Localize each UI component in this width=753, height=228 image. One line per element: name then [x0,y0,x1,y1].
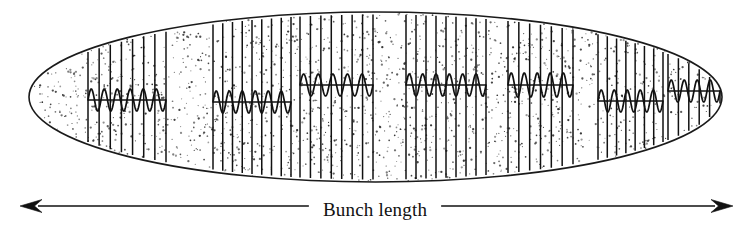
stipple-dot [336,47,337,48]
stipple-dot [386,113,387,114]
stipple-dot [640,147,642,149]
stipple-dot [322,118,323,119]
stipple-dot [296,28,298,30]
stipple-dot [200,129,201,130]
stipple-dot [400,142,401,143]
stipple-dot [670,111,672,113]
stipple-dot [449,93,451,95]
stipple-dot [646,143,648,145]
stipple-dot [357,107,359,109]
stipple-dot [137,84,139,86]
stipple-dot [93,139,95,141]
stipple-dot [192,97,193,98]
stipple-dot [301,83,303,85]
stipple-dot [350,173,352,175]
stipple-dot [495,71,497,73]
stipple-dot [77,115,78,116]
stipple-dot [191,130,193,132]
stipple-dot [674,80,676,82]
stipple-dot [441,83,443,85]
stipple-dot [595,33,597,35]
stipple-dot [398,137,399,138]
stipple-dot [691,117,693,119]
stipple-dot [557,160,559,162]
stipple-dot [510,161,512,163]
stipple-dot [203,131,205,133]
stipple-dot [180,154,182,156]
stipple-dot [503,94,505,96]
stipple-dot [230,133,232,135]
stipple-dot [274,146,275,147]
stipple-dot [316,129,318,131]
stipple-dot [527,59,529,61]
stipple-dot [145,112,147,114]
stipple-dot [525,156,527,158]
stipple-dot [493,162,495,164]
stipple-dot [164,66,165,67]
stipple-dot [147,148,149,150]
stipple-dot [413,58,415,60]
stipple-dot [187,55,189,57]
stipple-dot [473,68,475,70]
stipple-dot [234,169,235,170]
stipple-dot [560,58,561,59]
stipple-dot [354,174,355,175]
stipple-dot [190,139,192,141]
stipple-dot [515,140,517,142]
stipple-dot [581,103,582,104]
stipple-dot [382,55,383,56]
stipple-dot [161,146,162,147]
stipple-dot [195,36,197,38]
stipple-dot [512,46,514,48]
stipple-dot [383,81,385,83]
stipple-dot [404,81,405,82]
stipple-dot [587,39,589,41]
stipple-dot [327,107,329,109]
stipple-dot [236,165,238,167]
stipple-dot [570,132,572,134]
stipple-dot [317,107,319,109]
stipple-dot [233,154,235,156]
stipple-dot [141,123,143,125]
stipple-dot [316,28,318,30]
stipple-dot [483,36,485,38]
stipple-dot [519,52,520,53]
stipple-dot [383,116,384,117]
stipple-dot [659,76,660,77]
stipple-dot [366,31,368,33]
stipple-dot [294,40,296,42]
stipple-dot [210,127,211,128]
stipple-dot [111,148,112,149]
stipple-dot [639,142,641,144]
stipple-dot [618,59,620,61]
stipple-dot [268,35,270,37]
stipple-dot [174,33,175,34]
stipple-dot [638,109,640,111]
stipple-dot [183,31,185,33]
stipple-dot [579,119,580,120]
stipple-dot [673,69,675,71]
stipple-dot [637,43,639,45]
stipple-dot [296,39,298,41]
stipple-dot [287,25,288,26]
bunch-length-figure: Bunch length [0,0,753,228]
stipple-dot [317,69,318,70]
stipple-dot [256,36,258,38]
stipple-dot [205,54,207,56]
stipple-dot [623,39,625,41]
stipple-dot [107,125,109,127]
stipple-dot [162,126,164,128]
stipple-dot [316,100,317,101]
stipple-dot [627,52,629,54]
stipple-dot [209,166,211,168]
stipple-dot [423,23,425,25]
stipple-dot [51,73,52,74]
stipple-dot [588,105,590,107]
stipple-dot [108,66,110,68]
stipple-dot [269,148,271,150]
stipple-dot [385,32,387,34]
stipple-dot [203,117,205,119]
stipple-dot [556,106,558,108]
stipple-dot [293,99,295,101]
stipple-dot [247,19,249,21]
